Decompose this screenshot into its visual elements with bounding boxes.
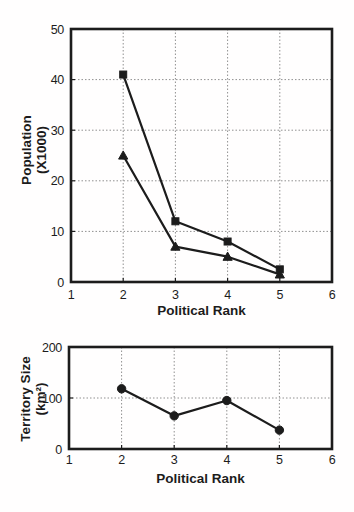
y-axis-title-line1: Population	[19, 115, 34, 185]
territory-size-line	[122, 389, 280, 430]
plot-frame	[71, 29, 332, 282]
x-tick-label: 6	[329, 288, 336, 302]
x-tick-label: 4	[224, 288, 231, 302]
population-lower-marker	[171, 242, 180, 250]
population-upper-marker	[224, 238, 231, 245]
y-tick-label: 10	[51, 225, 65, 239]
x-tick-label: 2	[118, 453, 125, 467]
y-axis-title-line1: Territory Size	[18, 356, 33, 442]
territory-size-marker	[170, 412, 178, 420]
x-axis-title: Political Rank	[156, 471, 245, 486]
x-axis-title: Political Rank	[157, 303, 246, 318]
x-tick-label: 1	[66, 453, 73, 467]
y-tick-label: 50	[51, 23, 65, 37]
chart-panel-2: 1234560100200Political RankTerritory Siz…	[18, 341, 336, 487]
y-tick-label: 0	[55, 443, 62, 457]
x-tick-label: 5	[276, 288, 283, 302]
territory-size-marker	[223, 396, 231, 404]
y-tick-label: 30	[51, 124, 65, 138]
x-tick-label: 4	[223, 453, 230, 467]
territory-size-marker	[275, 426, 283, 434]
x-tick-label: 3	[172, 288, 179, 302]
figure-canvas: 12345601020304050Political RankPopulatio…	[0, 0, 354, 512]
population-upper-marker	[120, 71, 127, 78]
y-tick-label: 200	[42, 341, 62, 355]
y-axis-title-line2: (X1000)	[34, 126, 49, 174]
population-upper-line	[123, 75, 280, 270]
population-upper-marker	[172, 218, 179, 225]
x-tick-label: 2	[120, 288, 127, 302]
chart-panel-1: 12345601020304050Political RankPopulatio…	[19, 23, 336, 319]
population-lower-marker	[119, 151, 128, 159]
y-tick-label: 0	[57, 276, 64, 290]
x-tick-label: 6	[329, 453, 336, 467]
y-axis-title-line2: (km²)	[33, 383, 48, 416]
x-tick-label: 5	[276, 453, 283, 467]
y-tick-label: 20	[51, 174, 65, 188]
x-tick-label: 3	[171, 453, 178, 467]
scanned-figure-page: 12345601020304050Political RankPopulatio…	[0, 0, 354, 512]
y-tick-label: 40	[51, 73, 65, 87]
x-tick-label: 1	[68, 288, 75, 302]
territory-size-marker	[117, 385, 125, 393]
